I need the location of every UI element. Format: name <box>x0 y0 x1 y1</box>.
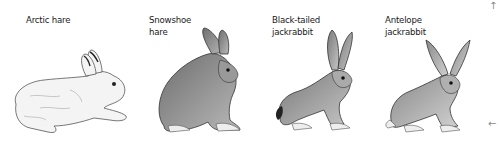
arctic-hare-illustration <box>10 46 135 136</box>
label-arctic-hare: Arctic hare <box>26 14 70 26</box>
black-tailed-jackrabbit-illustration <box>270 26 370 136</box>
antelope-jackrabbit-illustration <box>378 28 478 136</box>
arrow-up-icon: ↑ <box>489 1 497 11</box>
snowshoe-hare-illustration <box>150 26 250 136</box>
arrow-left-icon: ← <box>488 119 496 129</box>
